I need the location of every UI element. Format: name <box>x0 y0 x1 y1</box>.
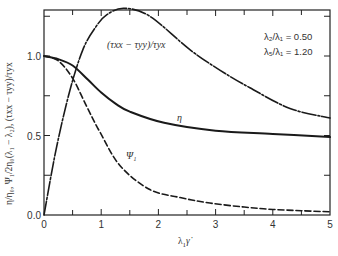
x-axis-label: λ1γ̇ <box>178 236 193 249</box>
x-tick-label: 0 <box>41 219 47 230</box>
chart-canvas: 0123450.00.51.0 (τxx − τyy)/τyx η Ψ₁ λ₂/… <box>0 0 338 256</box>
y-tick-label: 0.0 <box>27 210 41 221</box>
param-lambda5-ratio: λ₅/λ₁ = 1.20 <box>264 46 313 57</box>
y-tick-label: 1.0 <box>27 51 41 62</box>
x-tick-label: 5 <box>327 219 333 230</box>
param-lambda2-ratio: λ₂/λ₁ = 0.50 <box>264 31 312 42</box>
y-tick-label: 0.5 <box>27 131 41 142</box>
eta-label: η <box>177 112 182 123</box>
y-axis-label: η/η₀, Ψ₁/2η₀(λ₁ − λ₂), (τxx − τyy)/τyx <box>4 62 15 205</box>
x-tick-label: 1 <box>98 219 104 230</box>
x-tick-label: 2 <box>156 219 162 230</box>
stress-ratio-label: (τxx − τyy)/τyx <box>107 39 166 51</box>
x-tick-label: 3 <box>213 219 219 230</box>
psi1-label: Ψ₁ <box>126 150 137 161</box>
x-tick-label: 4 <box>270 219 276 230</box>
eta-curve <box>44 56 330 137</box>
